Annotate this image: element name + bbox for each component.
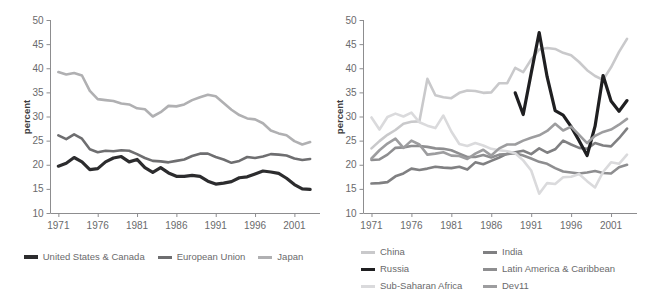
legend-item[interactable]: Latin America & Caribbean — [483, 264, 654, 274]
legend-swatch-icon — [361, 285, 375, 288]
left-y-axis-title: percent — [21, 99, 32, 134]
legend-item[interactable]: Japan — [258, 252, 303, 262]
legend-swatch-icon — [24, 255, 38, 259]
legend-item-label: Sub-Saharan Africa — [380, 281, 462, 291]
legend-swatch-icon — [483, 285, 497, 288]
y-tick-label: 45 — [345, 39, 357, 50]
chart-panel-left: 101520253035404550 197119761981198619911… — [0, 0, 327, 301]
y-tick-label: 45 — [32, 39, 44, 50]
right-y-axis-title: percent — [334, 99, 345, 134]
right-legend: ChinaIndiaRussiaLatin America & Caribbea… — [327, 244, 654, 295]
series-line — [58, 134, 310, 162]
legend-item[interactable]: United States & Canada — [24, 252, 145, 262]
left-x-ticks: 1971197619811986199119962001 — [47, 213, 306, 231]
x-tick-label: 1976 — [87, 220, 110, 231]
right-x-ticks: 1971197619811986199119962001 — [360, 213, 622, 231]
y-tick-label: 40 — [345, 63, 357, 74]
y-tick-label: 50 — [32, 15, 44, 26]
x-tick-label: 2001 — [600, 220, 623, 231]
right-series-group — [371, 33, 627, 194]
y-tick-label: 25 — [345, 135, 357, 146]
y-tick-label: 35 — [345, 87, 357, 98]
legend-item-label: Russia — [380, 264, 409, 274]
left-legend: United States & CanadaEuropean UnionJapa… — [0, 252, 327, 262]
x-tick-label: 1976 — [400, 220, 423, 231]
y-tick-label: 20 — [345, 159, 357, 170]
legend-item-label: United States & Canada — [43, 252, 145, 262]
x-tick-label: 1981 — [126, 220, 149, 231]
left-chart-svg: 101520253035404550 197119761981198619911… — [0, 0, 327, 240]
legend-item-label: Dev11 — [502, 281, 529, 291]
legend-item-label: Japan — [277, 252, 303, 262]
legend-swatch-icon — [483, 251, 497, 254]
y-tick-label: 15 — [32, 183, 44, 194]
legend-item[interactable]: Russia — [361, 264, 483, 274]
x-tick-label: 1996 — [560, 220, 583, 231]
legend-item-label: China — [380, 247, 405, 257]
chart-panel-right: 101520253035404550 197119761981198619911… — [327, 0, 654, 301]
x-tick-label: 1986 — [480, 220, 503, 231]
right-chart-svg: 101520253035404550 197119761981198619911… — [327, 0, 654, 240]
x-tick-label: 1996 — [244, 220, 267, 231]
y-tick-label: 50 — [345, 15, 357, 26]
y-tick-label: 20 — [32, 159, 44, 170]
x-tick-label: 1991 — [520, 220, 543, 231]
left-y-ticks: 101520253035404550 — [32, 15, 50, 219]
legend-item[interactable]: Dev11 — [483, 281, 654, 291]
right-y-ticks: 101520253035404550 — [345, 15, 363, 219]
legend-item-label: Latin America & Caribbean — [502, 264, 615, 274]
two-panel-line-chart-figure: 101520253035404550 197119761981198619911… — [0, 0, 654, 301]
x-tick-label: 1986 — [165, 220, 188, 231]
series-line — [58, 72, 310, 144]
y-tick-label: 40 — [32, 63, 44, 74]
legend-item-label: India — [502, 247, 523, 257]
legend-swatch-icon — [483, 268, 497, 271]
legend-swatch-icon — [158, 256, 172, 259]
x-tick-label: 1991 — [205, 220, 228, 231]
y-tick-label: 25 — [32, 135, 44, 146]
series-line — [371, 129, 627, 184]
x-tick-label: 1971 — [47, 220, 70, 231]
legend-swatch-icon — [258, 256, 272, 259]
y-tick-label: 35 — [32, 87, 44, 98]
series-line — [58, 157, 310, 190]
y-tick-label: 10 — [32, 208, 44, 219]
legend-item-label: European Union — [177, 252, 246, 262]
y-tick-label: 15 — [345, 183, 357, 194]
x-tick-label: 1981 — [440, 220, 463, 231]
left-series-group — [58, 72, 310, 189]
x-tick-label: 2001 — [283, 220, 306, 231]
x-tick-label: 1971 — [360, 220, 383, 231]
legend-item[interactable]: China — [361, 247, 483, 257]
series-line — [371, 39, 627, 149]
legend-item[interactable]: European Union — [158, 252, 246, 262]
y-tick-label: 10 — [345, 208, 357, 219]
legend-item[interactable]: Sub-Saharan Africa — [361, 281, 483, 291]
legend-item[interactable]: India — [483, 247, 654, 257]
legend-swatch-icon — [361, 268, 375, 272]
y-tick-label: 30 — [345, 111, 357, 122]
left-axes — [51, 20, 321, 214]
legend-swatch-icon — [361, 251, 375, 254]
y-tick-label: 30 — [32, 111, 44, 122]
